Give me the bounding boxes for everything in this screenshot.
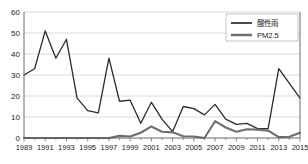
- y-tick-label: 0: [16, 134, 21, 143]
- y-tick-label: 60: [11, 8, 20, 17]
- y-tick-label: 30: [11, 71, 20, 80]
- x-tick-label: 2011: [249, 143, 265, 152]
- x-tick-label: 2001: [143, 143, 160, 152]
- data-series: [24, 31, 300, 138]
- x-axis-tick-labels: 1989199119931995199719992001200320052007…: [16, 143, 308, 152]
- x-tick-label: 1995: [79, 143, 96, 152]
- x-tick-label: 2007: [207, 143, 224, 152]
- line-chart: 0102030405060 19891991199319951997199920…: [0, 0, 308, 164]
- y-tick-label: 20: [11, 92, 20, 101]
- legend-label-pm25: PM2.5: [257, 31, 279, 40]
- legend-label-acid-rain: 酸性雨: [257, 18, 279, 28]
- x-tick-label: 1997: [101, 143, 118, 152]
- chart-legend: 酸性雨PM2.5: [226, 14, 298, 41]
- x-tick-label: 1999: [122, 143, 139, 152]
- y-tick-label: 50: [11, 29, 20, 38]
- series-line-acid-rain: [24, 31, 300, 132]
- x-tick-label: 2013: [270, 143, 287, 152]
- x-tick-label: 2003: [164, 143, 181, 152]
- x-tick-label: 2015: [292, 143, 308, 152]
- y-tick-label: 40: [11, 50, 20, 59]
- x-tick-label: 2005: [186, 143, 203, 152]
- y-axis-tick-labels: 0102030405060: [11, 8, 20, 143]
- x-tick-label: 1993: [58, 143, 75, 152]
- y-tick-label: 10: [11, 113, 20, 122]
- chart-container: 0102030405060 19891991199319951997199920…: [0, 0, 308, 164]
- x-tick-label: 1991: [37, 143, 54, 152]
- x-tick-label: 1989: [16, 143, 33, 152]
- series-line-pm25: [24, 121, 300, 138]
- x-tick-label: 2009: [228, 143, 245, 152]
